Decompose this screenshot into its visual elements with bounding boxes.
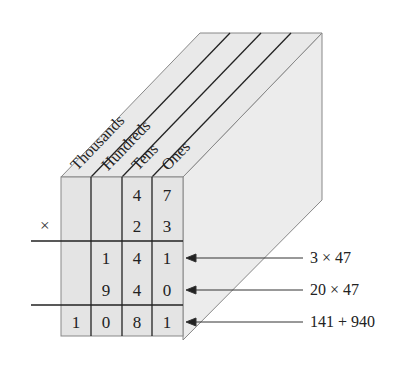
- cell-r3-hundreds: 9: [91, 281, 121, 301]
- place-value-box-diagram: Thousands Hundreds Tens Ones × 4 7 2 3 1…: [0, 0, 412, 369]
- cell-r3-tens: 4: [122, 281, 152, 301]
- cell-r3-ones: 0: [152, 281, 182, 301]
- annotation-partial-1: 3 × 47: [310, 249, 351, 267]
- cell-r4-thousands: 1: [61, 313, 91, 333]
- multiply-sign: ×: [40, 216, 50, 236]
- annotation-product: 141 + 940: [310, 313, 375, 331]
- cell-r4-ones: 1: [152, 313, 182, 333]
- cell-r4-tens: 8: [122, 313, 152, 333]
- cell-r0-ones: 7: [152, 186, 182, 206]
- cell-r2-tens: 4: [122, 249, 152, 269]
- cell-r2-hundreds: 1: [91, 249, 121, 269]
- cell-r1-ones: 3: [152, 217, 182, 237]
- cell-r1-tens: 2: [122, 217, 152, 237]
- cell-r2-ones: 1: [152, 249, 182, 269]
- cell-r0-tens: 4: [122, 186, 152, 206]
- annotation-partial-2: 20 × 47: [310, 281, 359, 299]
- cell-r4-hundreds: 0: [91, 313, 121, 333]
